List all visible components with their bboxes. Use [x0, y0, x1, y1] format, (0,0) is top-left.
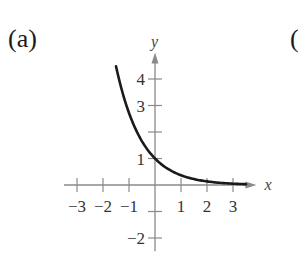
x-axis-arrow-icon — [245, 182, 256, 189]
x-axis-label: x — [263, 176, 271, 193]
chart: −3−2−1123−2134xy — [0, 0, 298, 260]
x-tick-label: −1 — [120, 197, 138, 216]
x-tick-label: −2 — [94, 197, 112, 216]
y-tick-label: 3 — [137, 97, 146, 116]
x-tick-label: 3 — [229, 197, 238, 216]
y-tick-label: 4 — [137, 70, 146, 89]
y-tick-label: −2 — [127, 229, 145, 248]
y-axis-label: y — [149, 33, 159, 51]
curve-line — [116, 66, 246, 184]
x-tick-label: −3 — [68, 197, 86, 216]
x-tick-label: 2 — [203, 197, 212, 216]
y-tick-label: 1 — [137, 150, 146, 169]
y-axis-arrow-icon — [152, 53, 159, 64]
x-tick-label: 1 — [177, 197, 186, 216]
